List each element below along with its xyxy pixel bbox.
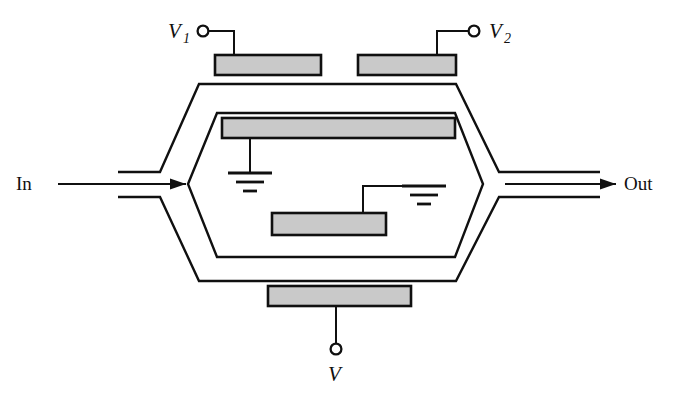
v-label: V: [328, 362, 343, 386]
v2-subscript: 2: [504, 31, 511, 46]
diagram-canvas: In Out V 1 V 2: [0, 0, 677, 397]
v1-subscript: 1: [183, 31, 190, 46]
ground-symbol-left-icon: [228, 173, 272, 191]
v2-wire: [437, 31, 469, 55]
v2-group: V 2: [437, 19, 511, 55]
v1-terminal-icon[interactable]: [198, 26, 209, 37]
v1-wire: [209, 31, 235, 55]
outer-hexagon-lower: [118, 197, 600, 281]
inner-lower-electrode: [272, 213, 386, 235]
v-terminal-icon[interactable]: [331, 344, 342, 355]
ground-symbol-right-icon: [402, 186, 446, 204]
input-label: In: [16, 173, 32, 194]
inner-lower-ground-wire: [363, 186, 424, 213]
v1-group: V 1: [168, 19, 234, 55]
top-right-electrode: [358, 55, 456, 75]
input-arrow-icon: [58, 179, 186, 190]
inner-upper-electrode: [222, 118, 455, 138]
v2-label: V: [489, 19, 504, 43]
output-label: Out: [624, 173, 653, 194]
top-left-electrode: [215, 55, 321, 75]
bottom-electrode: [268, 286, 411, 306]
v2-terminal-icon[interactable]: [469, 26, 480, 37]
output-port-group: Out: [505, 173, 653, 194]
input-port-group: In: [16, 173, 186, 194]
output-arrow-icon: [505, 179, 616, 190]
v1-label: V: [168, 19, 183, 43]
waveguide-structure: [118, 84, 600, 281]
schematic-svg: In Out V 1 V 2: [0, 0, 677, 397]
